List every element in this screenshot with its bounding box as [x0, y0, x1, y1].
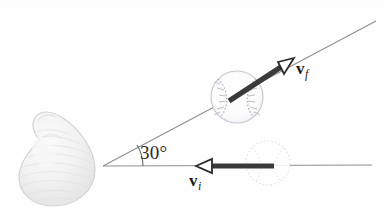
- physics-figure: 30° vf vi: [0, 0, 384, 224]
- baseball-bat-icon: [19, 112, 95, 206]
- baseball-ghost-icon: [246, 141, 290, 185]
- angle-arc-icon: [137, 145, 143, 166]
- figure-canvas: [0, 0, 384, 224]
